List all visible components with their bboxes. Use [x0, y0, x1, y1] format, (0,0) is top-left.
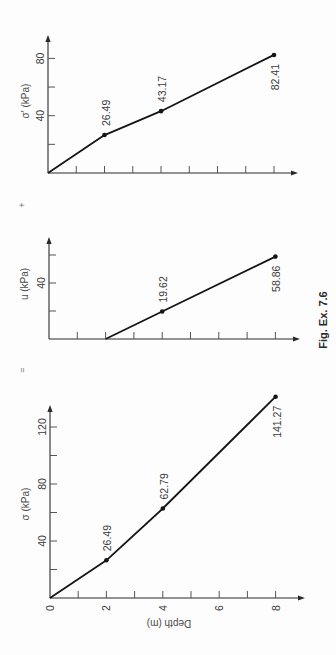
data-point-value-label: 62.79 — [158, 473, 170, 499]
stress-tick-label: 40 — [34, 110, 46, 122]
data-point-marker — [159, 109, 164, 114]
arrow-up-icon — [45, 35, 50, 42]
stress-tick-label: 40 — [35, 277, 47, 289]
data-point-value-label: 43.17 — [156, 76, 168, 102]
depth-tick-label: 8 — [270, 605, 282, 611]
depth-tick-label: 4 — [157, 605, 169, 611]
data-point-marker — [273, 254, 278, 259]
data-point-marker — [104, 558, 109, 563]
stress-tick-label: 120 — [36, 418, 48, 436]
arrow-up-icon — [47, 405, 52, 412]
data-point-marker — [102, 133, 107, 138]
arrow-right-icon — [293, 336, 300, 341]
depth-tick-label: 2 — [100, 605, 112, 611]
data-point-marker — [160, 309, 165, 314]
stress-tick-label: 80 — [34, 52, 46, 64]
equals-operator: = — [17, 367, 27, 372]
data-point-marker — [161, 506, 166, 511]
data-point-value-label: 26.49 — [100, 100, 112, 126]
data-point-value-label: 82.41 — [269, 64, 281, 90]
data-point-marker — [273, 394, 278, 399]
figure-canvas: 408012002468σ (kPa)Depth (m)26.4962.7914… — [0, 0, 336, 655]
plus-operator: + — [17, 202, 27, 207]
arrow-right-icon — [298, 595, 305, 600]
arrow-right-icon — [291, 170, 298, 175]
data-point-value-label: 58.86 — [270, 265, 282, 291]
stress-tick-label: 80 — [36, 478, 48, 490]
arrow-up-icon — [46, 237, 51, 244]
panel-pore-pressure: 40u (kPa)19.6258.86 — [19, 237, 301, 342]
stress-axis-title: u (kPa) — [19, 268, 30, 300]
depth-axis-title: Depth (m) — [147, 618, 191, 629]
stress-profile-line — [106, 257, 276, 339]
data-point-value-label: 26.49 — [101, 525, 113, 551]
panel-total-stress: 408012002468σ (kPa)Depth (m)26.4962.7914… — [20, 394, 306, 628]
stress-axis-title: σ (kPa) — [20, 488, 31, 521]
data-point-value-label: 19.62 — [157, 276, 169, 302]
data-point-marker — [272, 53, 277, 58]
stress-panels: 408012002468σ (kPa)Depth (m)26.4962.7914… — [19, 35, 306, 629]
panel-effective-stress: 4080σ' (kPa)26.4943.1782.41 — [20, 35, 299, 176]
depth-tick-label: 6 — [213, 605, 225, 611]
data-point-value-label: 141.27 — [271, 406, 283, 438]
stress-axis-title: σ' (kPa) — [20, 84, 31, 119]
stress-tick-label: 40 — [36, 535, 48, 547]
depth-tick-label: 0 — [44, 605, 56, 611]
figure-caption: Fig. Ex. 7.6 — [317, 291, 329, 348]
stress-profile-line — [48, 55, 274, 173]
